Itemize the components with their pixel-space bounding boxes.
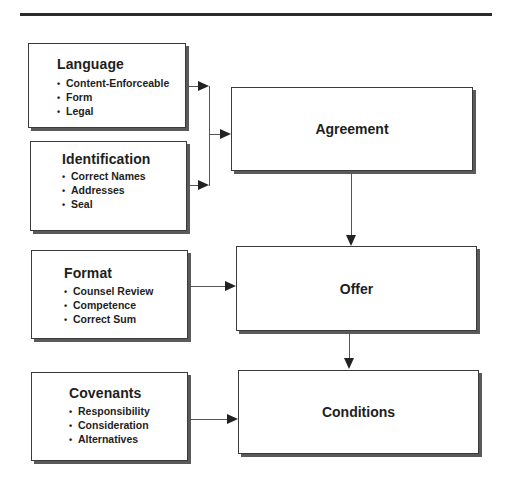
list-item: Addresses [62,184,146,198]
list-item: Alternatives [69,433,150,447]
list-item: Legal [57,105,169,119]
covenants-title: Covenants [69,385,141,401]
identification-list: Correct Names Addresses Seal [62,170,146,212]
offer-box: Offer [236,246,477,331]
arrow-right-icon [198,180,209,190]
list-item: Responsibility [69,405,150,419]
covenants-box: Covenants Responsibility Consideration A… [31,372,188,461]
arrow-right-icon [227,414,238,424]
offer-label: Offer [340,281,373,297]
top-rule [20,13,492,16]
list-item: Correct Sum [64,313,154,327]
conditions-box: Conditions [238,370,479,454]
arrow-right-icon [225,281,236,291]
language-list: Content-Enforceable Form Legal [57,77,169,119]
format-list: Counsel Review Competence Correct Sum [64,285,154,327]
format-title: Format [64,265,112,281]
arrow-right-icon [220,129,231,139]
connector-format [189,286,225,287]
connector-covenants [189,419,227,420]
language-box: Language Content-Enforceable Form Legal [28,43,186,128]
list-item: Consideration [69,419,150,433]
covenants-list: Responsibility Consideration Alternative… [69,405,150,447]
identification-box: Identification Correct Names Addresses S… [30,141,187,231]
list-item: Competence [64,299,154,313]
arrow-down-icon [344,358,354,369]
conditions-label: Conditions [322,404,395,420]
connector-agreement-offer [351,172,352,236]
connector-merge-vertical [209,86,210,186]
connector-merge-horizontal [209,134,220,135]
list-item: Content-Enforceable [57,77,169,91]
arrow-down-icon [346,235,356,246]
list-item: Seal [62,198,146,212]
agreement-label: Agreement [315,121,388,137]
language-title: Language [57,56,124,72]
connector-offer-conditions [349,332,350,359]
identification-title: Identification [62,151,151,167]
format-box: Format Counsel Review Competence Correct… [31,250,188,339]
list-item: Correct Names [62,170,146,184]
list-item: Counsel Review [64,285,154,299]
arrow-right-icon [198,81,209,91]
agreement-box: Agreement [231,87,473,171]
list-item: Form [57,91,169,105]
